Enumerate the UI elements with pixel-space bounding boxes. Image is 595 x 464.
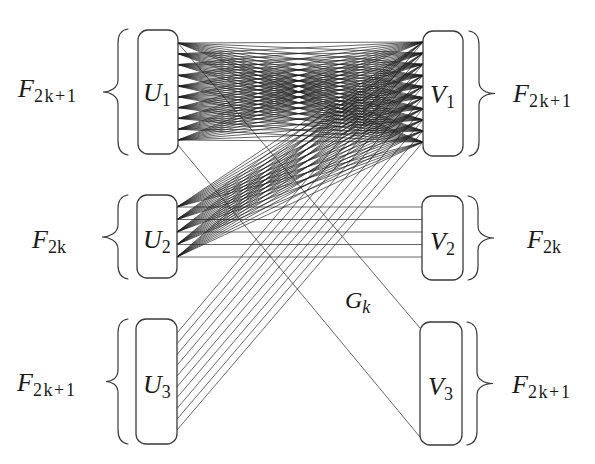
edge bbox=[177, 131, 423, 220]
size-label-v3: F2k+1 bbox=[511, 370, 570, 402]
right-brace-v2 bbox=[468, 196, 494, 280]
size-label-v1: F2k+1 bbox=[512, 79, 571, 111]
edge bbox=[178, 42, 423, 43]
size-label-u2: F2k bbox=[31, 225, 66, 257]
edge bbox=[177, 120, 423, 220]
bipartite-graph-figure: U1 U2 U3 V1 V2 V3 F2k+1 F2k F2k+1 F2k+1 … bbox=[0, 0, 595, 464]
left-brace-u3 bbox=[106, 319, 128, 444]
size-label-u1: F2k+1 bbox=[17, 74, 76, 106]
left-brace-u2 bbox=[102, 195, 128, 279]
edge bbox=[177, 98, 423, 220]
left-brace-u1 bbox=[103, 29, 128, 155]
edge bbox=[177, 131, 423, 232]
edges-layer bbox=[177, 42, 423, 437]
right-brace-v3 bbox=[467, 322, 493, 445]
size-label-u3: F2k+1 bbox=[16, 368, 75, 400]
edge bbox=[177, 109, 423, 207]
edge bbox=[177, 64, 423, 257]
size-label-v2: F2k bbox=[526, 225, 561, 257]
right-brace-v1 bbox=[469, 31, 495, 156]
graph-label: Gk bbox=[345, 287, 371, 317]
